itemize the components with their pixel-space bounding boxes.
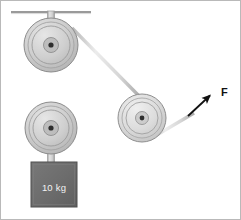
pulley-diagram-canvas: 10 kg F <box>0 0 241 220</box>
weight-block-label: 10 kg <box>42 182 66 193</box>
physics-diagram-figure: 10 kg F <box>0 0 241 220</box>
top-pulley <box>24 18 78 72</box>
force-arrow <box>188 96 210 117</box>
right-pulley <box>118 94 166 142</box>
bottom-pulley-axle <box>48 125 53 130</box>
force-label: F <box>221 86 228 98</box>
right-pulley-axle <box>140 116 145 121</box>
bottom-pulley <box>25 102 77 154</box>
top-pulley-axle <box>48 42 53 47</box>
rope-segment-diagonal <box>72 28 140 97</box>
weight-block: 10 kg <box>31 162 77 207</box>
